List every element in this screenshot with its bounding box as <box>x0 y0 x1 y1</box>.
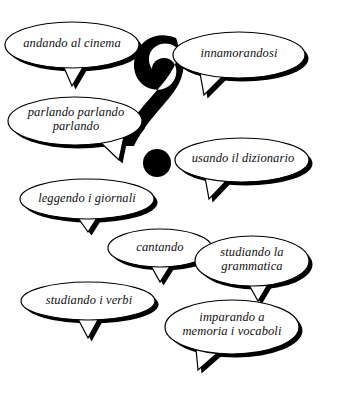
speech-bubbles-artwork <box>0 0 340 398</box>
question-mark-dot <box>143 149 171 177</box>
illustration-canvas: andando al cinemainnamorandosiparlando p… <box>0 0 340 398</box>
